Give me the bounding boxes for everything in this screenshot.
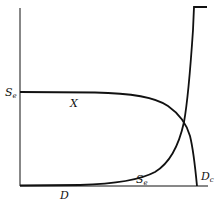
curve-se <box>20 7 207 186</box>
chart: Se X D Se Dc <box>0 0 223 204</box>
curve-x <box>20 92 197 186</box>
y-tick-label-se: Se <box>5 86 17 100</box>
x-axis-label-d: D <box>59 189 69 202</box>
curve-label-x: X <box>69 97 79 110</box>
label-dc: Dc <box>200 170 214 184</box>
